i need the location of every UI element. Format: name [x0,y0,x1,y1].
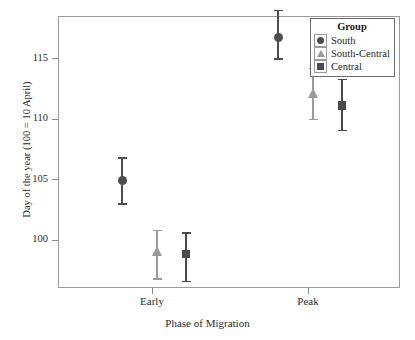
legend-item-south-central[interactable]: South-Central [314,47,390,60]
error-bar-cap-lower [309,119,318,120]
error-bar-cap-upper [338,79,347,80]
x-axis-tick-label: Early [117,296,187,307]
y-axis-tick [52,58,58,59]
data-point-marker[interactable] [152,246,162,256]
error-bar-cap-lower [153,278,162,279]
legend-key-triangle-icon [314,47,327,60]
error-bar-cap-lower [338,130,347,131]
x-axis-title: Phase of Migration [0,317,415,329]
data-point-marker[interactable] [274,33,283,42]
legend-item-label: South-Central [327,48,390,60]
error-bar-cap-upper [274,10,283,11]
error-bar-cap-lower [274,58,283,59]
y-axis-tick [52,179,58,180]
legend-item-label: Central [327,61,362,73]
y-axis-title: Day of the year (100 = 10 April) [21,45,32,255]
legend-title: Group [314,21,390,34]
x-axis-tick [308,288,309,294]
legend-key-square-icon [314,60,327,73]
data-point-marker[interactable] [338,101,347,110]
y-axis-tick [52,240,58,241]
legend-item-central[interactable]: Central [314,60,390,73]
legend-key-circle-icon [314,34,327,47]
y-axis-tick [52,119,58,120]
data-point-marker[interactable] [118,176,127,185]
error-bar-cap-upper [118,157,127,158]
error-bar-cap-upper [153,230,162,231]
data-point-marker[interactable] [308,88,318,98]
error-bar-cap-lower [182,281,191,282]
data-point-marker[interactable] [182,250,191,259]
legend-item-south[interactable]: South [314,34,390,47]
x-axis-tick-label: Peak [273,296,343,307]
legend-item-label: South [327,35,356,47]
legend[interactable]: Group SouthSouth-CentralCentral [310,18,395,77]
error-bar-cap-lower [118,203,127,204]
x-axis-tick [152,288,153,294]
legend-items: SouthSouth-CentralCentral [314,34,390,73]
chart-figure: 100105110115 EarlyPeak Phase of Migratio… [0,0,415,340]
error-bar-cap-upper [182,232,191,233]
